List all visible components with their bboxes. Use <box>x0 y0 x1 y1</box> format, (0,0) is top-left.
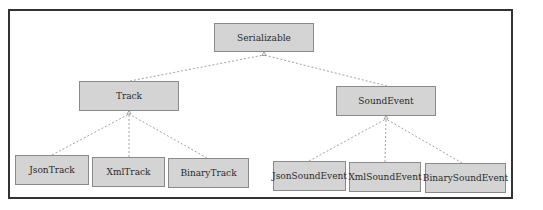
edge-jsonsoundevent-soundevent <box>309 119 386 161</box>
node-label: Track <box>116 91 142 101</box>
edge-xmlsoundevent-soundevent <box>385 119 386 162</box>
node-label: Serializable <box>237 33 291 43</box>
node-label: SoundEvent <box>358 96 413 106</box>
edge-soundevent-serializable <box>264 55 387 86</box>
node-xml-sound-event[interactable]: XmlSoundEvent <box>349 162 421 192</box>
edge-track-serializable <box>130 55 264 81</box>
edge-binarytrack-track <box>129 114 207 158</box>
node-label: JsonSoundEvent <box>272 171 347 181</box>
inheritance-arrow-icon <box>127 111 131 115</box>
node-label: BinarySoundEvent <box>423 173 508 183</box>
node-json-sound-event[interactable]: JsonSoundEvent <box>273 161 346 191</box>
node-label: BinaryTrack <box>180 168 236 178</box>
node-sound-event[interactable]: SoundEvent <box>336 86 436 116</box>
node-serializable[interactable]: Serializable <box>214 23 314 52</box>
node-label: XmlSoundEvent <box>348 172 421 182</box>
node-json-track[interactable]: JsonTrack <box>15 155 89 185</box>
node-xml-track[interactable]: XmlTrack <box>92 157 165 187</box>
node-track[interactable]: Track <box>79 81 179 111</box>
node-label: JsonTrack <box>29 165 75 175</box>
inheritance-arrow-icon <box>384 116 388 120</box>
inheritance-arrow-icon <box>262 52 266 56</box>
node-binary-track[interactable]: BinaryTrack <box>168 158 249 188</box>
edge-binarysoundevent-soundevent <box>386 119 462 163</box>
edge-jsontrack-track <box>52 114 129 155</box>
node-binary-sound-event[interactable]: BinarySoundEvent <box>425 163 506 193</box>
node-label: XmlTrack <box>107 167 151 177</box>
